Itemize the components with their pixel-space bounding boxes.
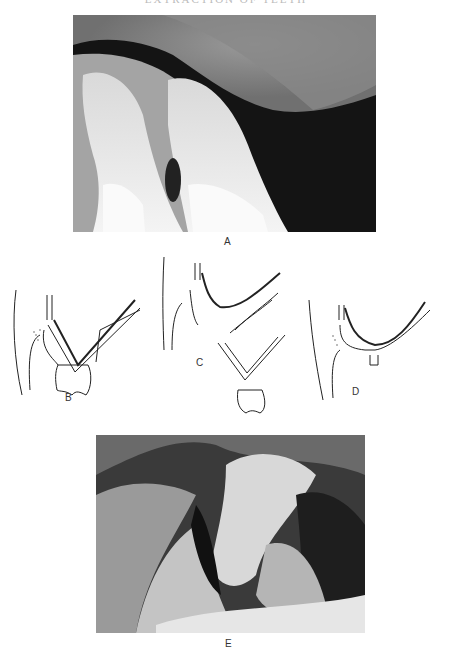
figure-a-label: A — [224, 236, 231, 247]
figure-d-diagram — [295, 270, 450, 410]
photograph-image — [96, 435, 365, 633]
figure-b-diagram — [0, 280, 160, 410]
radiograph-image — [73, 15, 376, 232]
figure-e-label: E — [225, 638, 232, 649]
figure-e-photograph — [96, 435, 365, 633]
figure-c-diagram — [150, 255, 300, 425]
figure-c-label: C — [196, 357, 203, 368]
figure-d-label: D — [352, 386, 359, 397]
running-header: EXTRACTION OF TEETH — [0, 0, 452, 5]
figure-a-radiograph — [73, 15, 376, 232]
figure-b-label: B — [65, 392, 72, 403]
